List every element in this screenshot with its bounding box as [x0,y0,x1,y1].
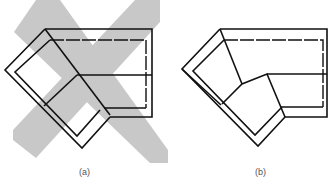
panel-b-label: (b) [255,167,266,177]
sofa-diagram-b [182,29,327,146]
panel-a-label: (a) [79,167,90,177]
figure-canvas [0,0,336,185]
